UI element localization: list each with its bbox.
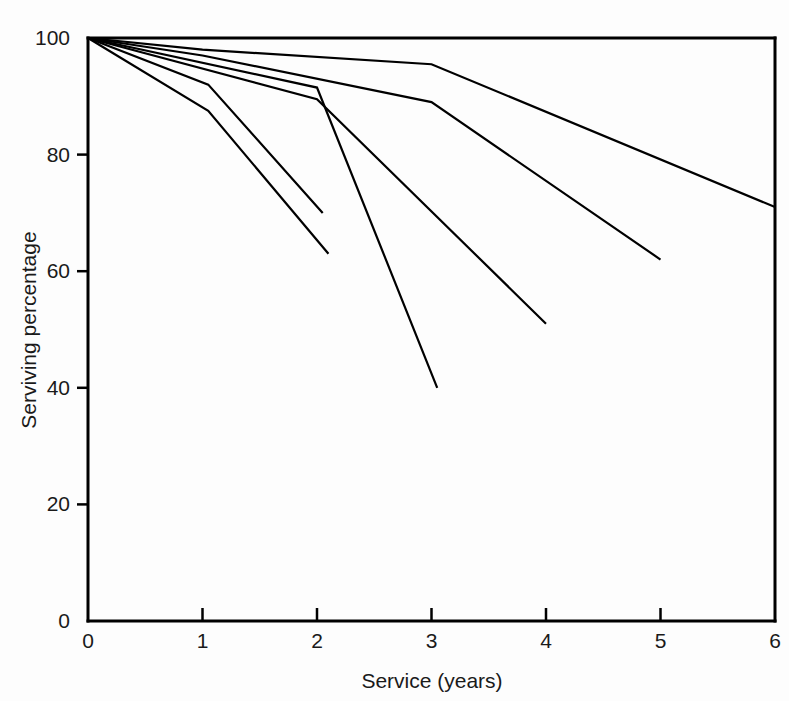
x-tick-label: 0	[82, 629, 94, 652]
survival-curve-chart: 020406080100 0123456 Serviving percentag…	[0, 0, 789, 701]
y-axis-title: Serviving percentage	[17, 231, 40, 428]
series-line-cohort-1	[88, 38, 775, 207]
x-tick-label: 1	[197, 629, 209, 652]
tick-marks-group	[77, 155, 661, 621]
y-tick-label: 80	[47, 143, 70, 166]
y-tick-label: 0	[58, 609, 70, 632]
y-tick-label: 40	[47, 376, 70, 399]
x-tick-label: 6	[769, 629, 781, 652]
x-tick-label: 5	[655, 629, 667, 652]
y-tick-label: 60	[47, 259, 70, 282]
x-tick-label: 3	[426, 629, 438, 652]
figure-container: 020406080100 0123456 Serviving percentag…	[0, 0, 789, 701]
x-tick-label: 4	[540, 629, 552, 652]
y-tick-label: 100	[35, 26, 70, 49]
data-series-group	[88, 38, 775, 388]
x-tick-labels-group: 0123456	[82, 629, 781, 652]
x-tick-label: 2	[311, 629, 323, 652]
x-axis-title: Service (years)	[361, 669, 502, 692]
series-line-cohort-4	[88, 38, 437, 388]
axes-group	[88, 38, 775, 621]
y-tick-label: 20	[47, 492, 70, 515]
y-tick-labels-group: 020406080100	[35, 26, 70, 632]
